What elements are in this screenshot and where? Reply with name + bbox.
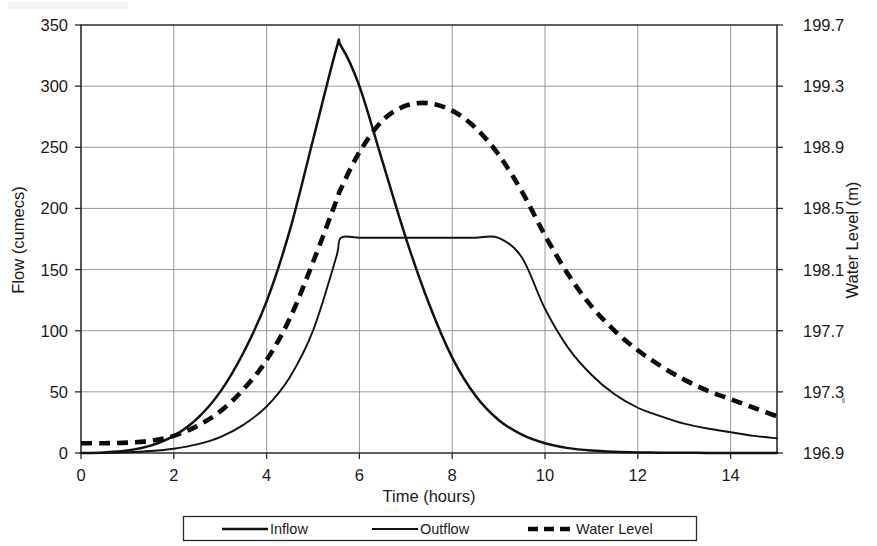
y2-tick-label: 199.7 xyxy=(803,16,844,34)
y-axis-tick-labels: 050100150200250300350 xyxy=(40,16,68,462)
y2-tick-label: 198.5 xyxy=(803,199,844,217)
y-tick-label: 0 xyxy=(59,444,68,462)
scan-artifact-top xyxy=(8,2,128,9)
scan-artifact-dot xyxy=(842,398,845,403)
x-tick-label: 4 xyxy=(262,466,271,484)
y-tick-label: 50 xyxy=(50,383,68,401)
legend-label-inflow: Inflow xyxy=(270,521,308,537)
y2-tick-label: 197.3 xyxy=(803,383,844,401)
gridlines xyxy=(81,25,777,453)
x-tick-label: 6 xyxy=(355,466,364,484)
plot-frame xyxy=(81,25,777,453)
y2-axis-title: Water Level (m) xyxy=(843,182,861,299)
x-tick-label: 8 xyxy=(448,466,457,484)
y2-tick-label: 197.7 xyxy=(803,322,844,340)
x-tick-label: 14 xyxy=(721,466,739,484)
y2-tick-label: 198.9 xyxy=(803,138,844,156)
y-tick-label: 350 xyxy=(40,16,68,34)
y2-tick-label: 196.9 xyxy=(803,444,844,462)
y-tick-label: 300 xyxy=(40,77,68,95)
flow-water-level-chart: 02468101214 050100150200250300350 196.91… xyxy=(0,0,877,546)
chart-legend: Inflow Outflow Water Level xyxy=(184,517,697,541)
x-tick-label: 2 xyxy=(169,466,178,484)
series-line-inflow xyxy=(81,39,777,453)
x-axis-title: Time (hours) xyxy=(383,487,476,505)
chart-canvas: 02468101214 050100150200250300350 196.91… xyxy=(0,0,877,546)
y-tick-label: 200 xyxy=(40,199,68,217)
x-tick-label: 10 xyxy=(536,466,554,484)
y2-axis-tick-labels: 196.9197.3197.7198.1198.5198.9199.3199.7 xyxy=(803,16,844,462)
y-axis-title: Flow (cumecs) xyxy=(9,186,27,293)
y-tick-label: 150 xyxy=(40,261,68,279)
y-tick-label: 250 xyxy=(40,138,68,156)
x-tick-label: 0 xyxy=(76,466,85,484)
y-tick-label: 100 xyxy=(40,322,68,340)
legend-label-water-level: Water Level xyxy=(576,521,653,537)
y2-tick-label: 199.3 xyxy=(803,77,844,95)
tick-marks xyxy=(75,25,783,459)
x-tick-label: 12 xyxy=(629,466,647,484)
series-line-outflow xyxy=(81,236,777,453)
x-axis-tick-labels: 02468101214 xyxy=(76,466,739,484)
y2-tick-label: 198.1 xyxy=(803,261,844,279)
legend-label-outflow: Outflow xyxy=(420,521,470,537)
